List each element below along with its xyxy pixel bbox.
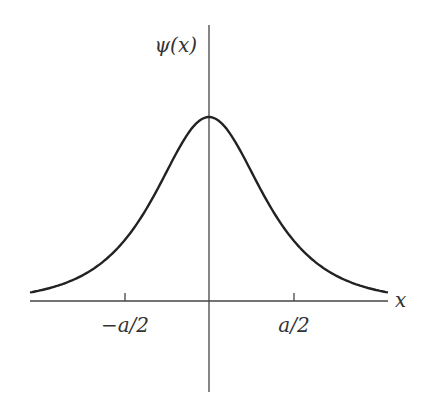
wavefunction-diagram: ψ(x) x −a/2 a/2: [0, 0, 436, 411]
y-axis-label: ψ(x): [154, 33, 197, 57]
tick-label-pos: a/2: [278, 313, 309, 337]
tick-label-neg: −a/2: [101, 313, 149, 337]
x-axis-label: x: [395, 288, 406, 312]
